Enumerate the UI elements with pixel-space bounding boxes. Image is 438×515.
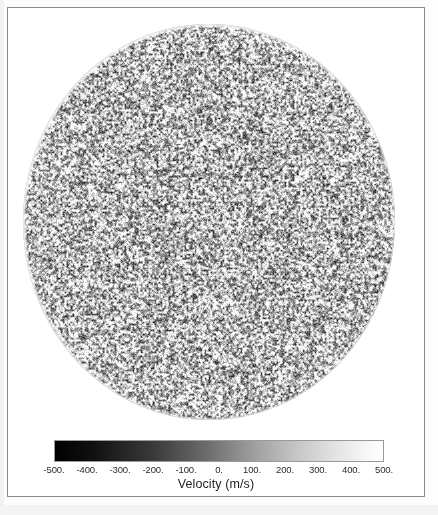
colorbar-block: -500.-400.-300.-200.-100.0.100.200.300.4…: [8, 426, 424, 496]
colorbar-axis-title: Velocity (m/s): [8, 477, 424, 491]
figure-frame: -500.-400.-300.-200.-100.0.100.200.300.4…: [7, 7, 425, 497]
colorbar-gradient: [55, 441, 383, 461]
solar-disk-wrapper: [23, 24, 395, 420]
solar-disk: [23, 24, 395, 420]
colorbar-tick-label: 500.: [375, 464, 393, 475]
colorbar-tick-label: -200.: [142, 464, 163, 475]
colorbar-tick-label: -100.: [175, 464, 196, 475]
page-gutter-bottom: [0, 505, 438, 515]
colorbar-tick-label: 300.: [309, 464, 327, 475]
colorbar-tick-label: 0.: [215, 464, 223, 475]
colorbar-tick-labels: -500.-400.-300.-200.-100.0.100.200.300.4…: [54, 464, 384, 478]
limb-blemish-icon: [109, 48, 118, 52]
colorbar-tick-label: -500.: [43, 464, 64, 475]
velocity-speckle-image: [23, 24, 395, 420]
colorbar: [54, 440, 384, 462]
colorbar-tick-label: -400.: [76, 464, 97, 475]
colorbar-tick-label: 100.: [243, 464, 261, 475]
solar-disk-panel: [8, 8, 424, 426]
colorbar-tick-label: 200.: [276, 464, 294, 475]
page-gutter-left: [0, 0, 4, 515]
colorbar-tick-label: -300.: [109, 464, 130, 475]
colorbar-tick-label: 400.: [342, 464, 360, 475]
figure-root: -500.-400.-300.-200.-100.0.100.200.300.4…: [0, 0, 438, 515]
